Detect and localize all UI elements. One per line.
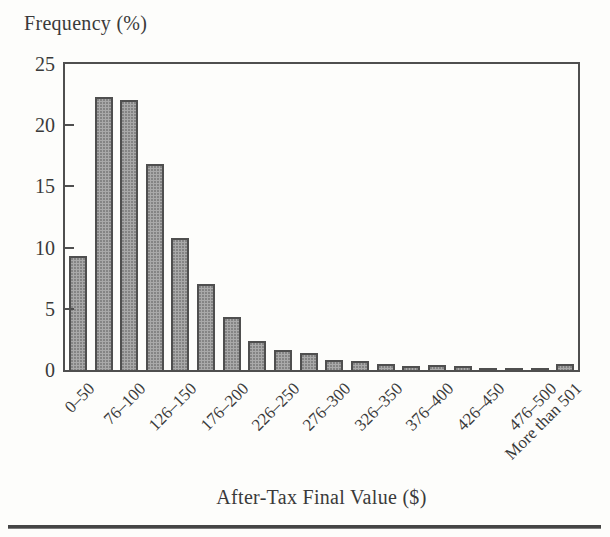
bar-8 bbox=[248, 341, 266, 370]
bar-14 bbox=[402, 366, 420, 370]
bar-2 bbox=[95, 97, 113, 370]
bar-9 bbox=[274, 350, 292, 370]
bar-18 bbox=[505, 368, 523, 371]
bar-6 bbox=[197, 284, 215, 370]
bar-17 bbox=[479, 368, 497, 371]
y-tick-label-20: 20 bbox=[19, 114, 55, 136]
bar-3 bbox=[120, 100, 138, 371]
bar-19 bbox=[531, 368, 549, 371]
y-tick-mark-10 bbox=[65, 247, 74, 249]
bar-16 bbox=[454, 366, 472, 370]
bottom-rule-divider bbox=[8, 525, 601, 529]
plot-area bbox=[63, 62, 580, 372]
y-tick-mark-20 bbox=[65, 124, 74, 126]
bar-1 bbox=[69, 256, 87, 370]
bar-5 bbox=[171, 238, 189, 370]
bar-20 bbox=[556, 364, 574, 370]
bar-4 bbox=[146, 164, 164, 370]
bar-15 bbox=[428, 365, 446, 370]
bar-13 bbox=[377, 364, 395, 370]
bar-12 bbox=[351, 361, 369, 370]
bar-7 bbox=[223, 317, 241, 370]
histogram-figure: Frequency (%) 0510152025 0–5076–100126–1… bbox=[0, 0, 610, 537]
x-axis-title: After-Tax Final Value ($) bbox=[63, 486, 580, 509]
y-tick-mark-5 bbox=[65, 308, 74, 310]
y-tick-mark-15 bbox=[65, 185, 74, 187]
y-tick-label-15: 15 bbox=[19, 175, 55, 197]
y-tick-label-25: 25 bbox=[19, 53, 55, 75]
y-tick-label-0: 0 bbox=[19, 359, 55, 381]
bar-11 bbox=[325, 360, 343, 370]
bar-10 bbox=[300, 353, 318, 370]
y-axis-title: Frequency (%) bbox=[24, 12, 147, 35]
y-tick-label-10: 10 bbox=[19, 237, 55, 259]
y-tick-label-5: 5 bbox=[19, 298, 55, 320]
